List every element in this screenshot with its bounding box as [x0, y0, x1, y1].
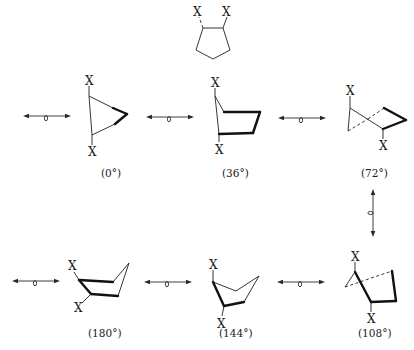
conformer-108deg: X X (108°) [345, 250, 396, 339]
conformer-144deg: X X (144°) [209, 258, 259, 339]
conformer-36deg: X X (36°) [211, 76, 260, 179]
conformer-0deg: X X (0°) [85, 74, 127, 179]
substituent-x-label: X [379, 139, 388, 153]
substituent-x-label: X [367, 312, 376, 326]
equilibrium-arrow [146, 115, 194, 122]
equilibrium-arrow [144, 280, 192, 287]
pseudorotation-diagram: X X X X (0°) X X (36°) [0, 0, 414, 350]
conformer-72deg: X X (72°) [346, 84, 406, 179]
substituent-x-label: X [211, 76, 220, 90]
angle-label: (0°) [101, 167, 121, 179]
substituent-x-label: X [74, 301, 83, 315]
angle-label: (72°) [361, 167, 388, 179]
angle-label: (144°) [219, 327, 252, 339]
equilibrium-arrow [278, 116, 326, 123]
substituent-x-label: X [209, 258, 218, 272]
substituent-x-label: X [222, 5, 231, 19]
substituent-x-label: X [88, 145, 97, 159]
angle-label: (36°) [222, 167, 249, 179]
substituent-x-label: X [68, 259, 77, 273]
equilibrium-arrow [277, 280, 325, 287]
substituent-x-label: X [351, 250, 360, 264]
equilibrium-arrow [23, 114, 71, 121]
conformer-180deg: X X (180°) [68, 259, 129, 339]
substituent-x-label: X [346, 84, 355, 98]
substituent-x-label: X [193, 5, 202, 19]
equilibrium-arrow-vertical [368, 189, 375, 237]
substituent-x-label: X [85, 74, 94, 88]
angle-label: (180°) [88, 327, 121, 339]
equilibrium-arrow [12, 279, 60, 286]
substituent-x-label: X [215, 143, 224, 157]
angle-label: (108°) [358, 327, 391, 339]
reference-cyclopentane: X X [193, 5, 231, 59]
